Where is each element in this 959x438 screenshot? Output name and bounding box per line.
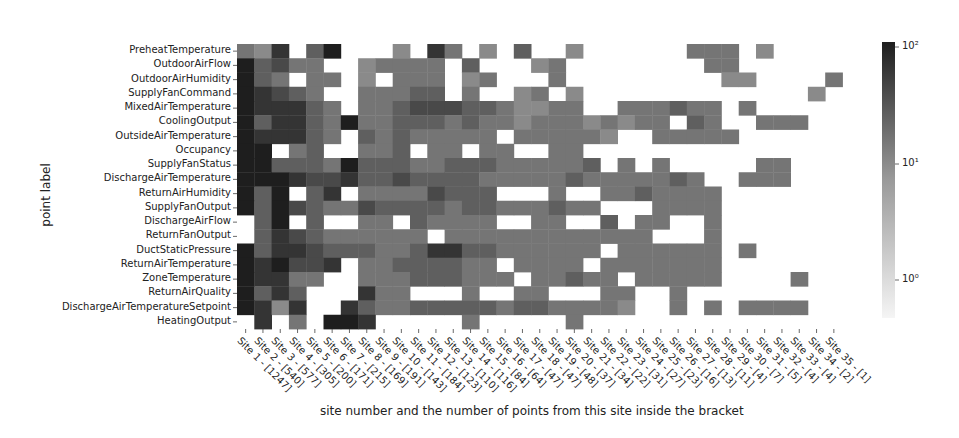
heatmap-cell — [704, 301, 722, 316]
heatmap-cell — [583, 272, 601, 287]
heatmap-cell — [427, 58, 445, 73]
heatmap-cell — [358, 115, 376, 130]
heatmap-cell — [393, 130, 411, 145]
heatmap-cell — [289, 229, 307, 244]
heatmap-cell — [773, 158, 791, 173]
heatmap-cell — [791, 272, 809, 287]
heatmap-cell — [600, 258, 618, 273]
heatmap-cell — [618, 115, 636, 130]
heatmap-cell — [514, 286, 532, 301]
heatmap-cell — [306, 215, 324, 230]
heatmap-cell — [289, 115, 307, 130]
heatmap-cell — [600, 215, 618, 230]
heatmap-cell — [479, 144, 497, 159]
heatmap-cell — [410, 158, 428, 173]
heatmap-cell — [600, 272, 618, 287]
heatmap-cell — [773, 172, 791, 187]
heatmap-cell — [739, 172, 757, 187]
heatmap-cell — [721, 58, 739, 73]
heatmap-cell — [687, 130, 705, 145]
heatmap-cell — [670, 272, 688, 287]
heatmap-cell — [341, 229, 359, 244]
heatmap-cell — [375, 201, 393, 216]
heatmap-cell — [618, 101, 636, 116]
heatmap-cell — [618, 286, 636, 301]
heatmap-cell — [393, 172, 411, 187]
heatmap-cell — [462, 87, 480, 102]
heatmap-cell — [410, 172, 428, 187]
heatmap-cell — [393, 187, 411, 202]
heatmap-cell — [410, 73, 428, 88]
heatmap-cell — [566, 130, 584, 145]
heatmap-cell — [393, 286, 411, 301]
heatmap-cell — [306, 258, 324, 273]
heatmap-cell — [254, 187, 272, 202]
heatmap-cell — [652, 101, 670, 116]
heatmap-cell — [427, 201, 445, 216]
heatmap-cell — [237, 301, 255, 316]
heatmap-cell — [548, 158, 566, 173]
heatmap-cell — [393, 258, 411, 273]
heatmap-cell — [583, 244, 601, 259]
heatmap-cell — [324, 244, 342, 259]
heatmap-cell — [341, 115, 359, 130]
heatmap-cell — [237, 58, 255, 73]
heatmap-cell — [497, 101, 515, 116]
heatmap-cell — [566, 115, 584, 130]
heatmap-cell — [497, 272, 515, 287]
y-axis-title: point label — [39, 163, 53, 226]
heatmap-cell — [427, 101, 445, 116]
heatmap-cell — [497, 144, 515, 159]
heatmap-cell — [462, 201, 480, 216]
heatmap-cell — [687, 201, 705, 216]
heatmap-cell — [514, 115, 532, 130]
heatmap-cell — [670, 172, 688, 187]
heatmap-cell — [773, 301, 791, 316]
heatmap-cell — [687, 187, 705, 202]
heatmap-cell — [618, 229, 636, 244]
heatmap-cell — [548, 73, 566, 88]
heatmap-cell — [687, 258, 705, 273]
heatmap-cell — [531, 87, 549, 102]
heatmap-cell — [548, 301, 566, 316]
heatmap-cell — [272, 73, 290, 88]
heatmap-cell — [704, 201, 722, 216]
heatmap-cell — [375, 101, 393, 116]
heatmap-cell — [566, 144, 584, 159]
heatmap-cell — [375, 301, 393, 316]
heatmap-cell — [497, 301, 515, 316]
heatmap-cell — [341, 172, 359, 187]
heatmap-cell — [704, 258, 722, 273]
heatmap-cell — [341, 158, 359, 173]
heatmap-cell — [324, 73, 342, 88]
heatmap-cell — [289, 158, 307, 173]
heatmap-cell — [566, 229, 584, 244]
heatmap-cell — [289, 258, 307, 273]
heatmap-cell — [272, 44, 290, 59]
heatmap-cell — [548, 187, 566, 202]
heatmap-cell — [289, 172, 307, 187]
heatmap-cell — [289, 315, 307, 330]
heatmap-cell — [531, 244, 549, 259]
heatmap-cell — [358, 101, 376, 116]
heatmap-cell — [704, 215, 722, 230]
heatmap-cell — [479, 44, 497, 59]
heatmap-cell — [427, 144, 445, 159]
heatmap-cell — [704, 44, 722, 59]
heatmap-cell — [721, 44, 739, 59]
heatmap-cell — [583, 301, 601, 316]
heatmap-cell — [479, 101, 497, 116]
heatmap-cell — [306, 187, 324, 202]
heatmap-cell — [497, 172, 515, 187]
heatmap-cell — [445, 301, 463, 316]
heatmap-cell — [358, 158, 376, 173]
heatmap-cell — [531, 301, 549, 316]
heatmap-cell — [704, 244, 722, 259]
heatmap-cell — [375, 258, 393, 273]
heatmap-cell — [410, 101, 428, 116]
heatmap-cell — [324, 130, 342, 145]
heatmap-cell — [341, 301, 359, 316]
heatmap-cell — [410, 58, 428, 73]
heatmap-cell — [445, 201, 463, 216]
heatmap-cell — [272, 58, 290, 73]
